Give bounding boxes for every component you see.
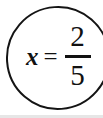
- fraction-denominator: 5: [68, 61, 87, 91]
- page-bottom-edge: [0, 115, 103, 118]
- fraction: 2 5: [65, 22, 91, 90]
- fraction-numerator: 2: [68, 22, 87, 52]
- fraction-bar: [65, 55, 91, 58]
- equation-variable: x: [26, 44, 39, 69]
- scanned-answer-page: x = 2 5: [0, 0, 103, 118]
- equation: x = 2 5: [26, 22, 91, 90]
- equals-sign: =: [44, 44, 58, 69]
